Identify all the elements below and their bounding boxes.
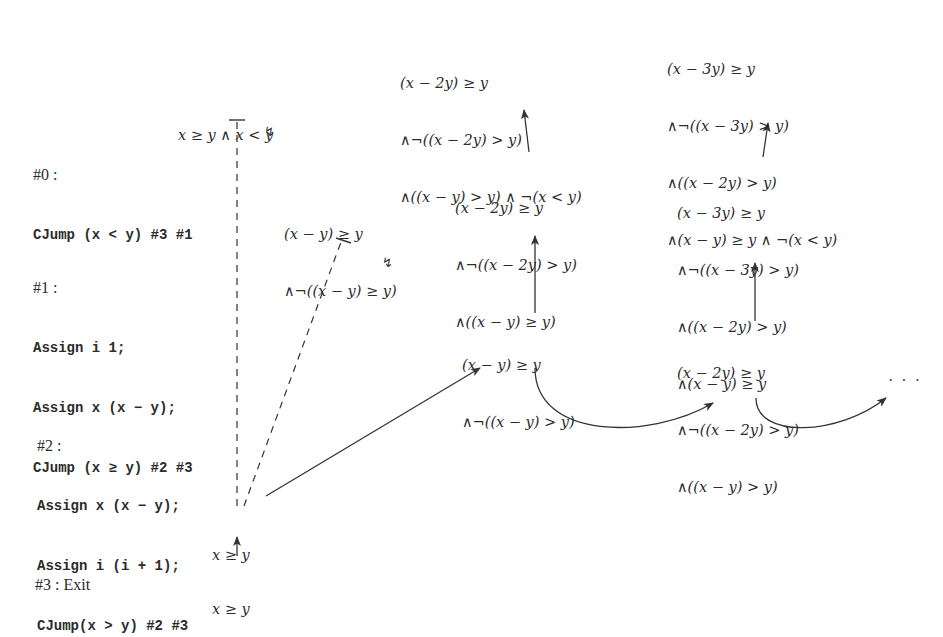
code-line: Assign i 1; [33,338,193,358]
formula-line: (x − y) ≥ y [284,225,397,244]
block-label: #3 : Exit [35,575,90,595]
formula-line: ∧((x − y) > y) [677,478,799,497]
formula-line: x ≥ y ∧ x < y [178,126,273,145]
node-infeasible-mid: (x − y) ≥ y ∧¬((x − y) ≥ y) [284,187,397,339]
formula-line: ∧¬((x − 2y) > y) [400,131,582,150]
lightning-infeasible-icon: ↯ [264,124,275,139]
node-iter1-up2: (x − 2y) ≥ y ∧¬((x − 2y) > y) ∧((x − y) … [400,36,582,245]
formula-line: ∧¬((x − y) ≥ y) [284,282,397,301]
edge-root-iter1 [266,368,480,496]
block-label: #1 : [33,278,193,298]
code-line: Assign x (x − y); [37,496,188,516]
block-label: #2 : [37,436,188,456]
formula-line: ∧¬((x − y) > y) [462,413,575,432]
formula-line: x ≥ y [212,600,250,619]
block-label: #0 : [33,165,193,185]
formula-line: ∧((x − y) ≥ y) [455,313,577,332]
formula-line: (x − 3y) ≥ y [667,60,837,79]
formula-line: ∧¬((x − 3y) > y) [667,117,837,136]
formula-line: ∧((x − 2y) > y) [677,318,799,337]
formula-line: ∧(x − y) ≥ y ∧ ¬(x < y) [667,231,837,250]
formula-line: ∧¬((x − 2y) > y) [455,256,577,275]
formula-line: ∧(x − y) ≥ y [677,375,799,394]
lightning-infeasible-icon: ↯ [382,255,393,270]
formula-line: (x − 2y) ≥ y [400,74,582,93]
formula-line: ∧((x − 2y) > y) [667,174,837,193]
continuation-ellipsis: · · · [888,372,922,390]
node-root-bottom: x ≥ y [212,562,250,637]
node-iter2-up2: (x − 3y) ≥ y ∧¬((x − 3y) > y) ∧((x − 2y)… [667,22,837,288]
formula-line: ∧((x − y) > y) ∧ ¬(x < y) [400,188,582,207]
block-3: #3 : Exit [35,535,90,635]
node-infeasible-top: x ≥ y ∧ x < y [178,88,273,183]
